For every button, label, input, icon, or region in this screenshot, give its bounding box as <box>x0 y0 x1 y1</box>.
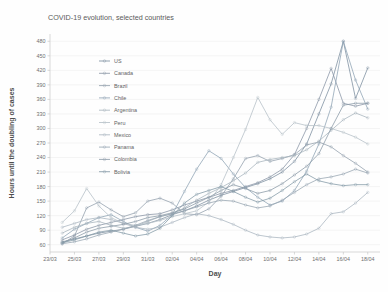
y-tick-label: 420 <box>37 67 46 73</box>
x-tick-label: 02/04 <box>165 256 179 262</box>
y-tick-label: 210 <box>37 169 46 175</box>
y-tick-label: 180 <box>37 184 46 190</box>
y-tick-label: 300 <box>37 125 46 131</box>
y-tick-label: 270 <box>37 140 46 146</box>
y-tick-label: 360 <box>37 96 46 102</box>
legend-label: Mexico <box>114 132 131 138</box>
y-tick-label: 90 <box>40 227 46 233</box>
x-tick-label: 29/03 <box>117 256 131 262</box>
x-tick-label: 18/04 <box>361 256 375 262</box>
covid-doubling-time-line-chart: COVID-19 evolution, selected countries 6… <box>0 0 388 292</box>
x-tick-label: 31/03 <box>141 256 155 262</box>
y-tick-label: 390 <box>37 82 46 88</box>
legend-label: Canada <box>114 70 133 76</box>
x-tick-label: 25/03 <box>68 256 82 262</box>
legend-label: Panama <box>114 144 134 150</box>
y-tick-label: 450 <box>37 53 46 59</box>
y-tick-label: 150 <box>37 198 46 204</box>
legend-label: Chile <box>114 95 126 101</box>
x-tick-label: 06/04 <box>214 256 228 262</box>
x-tick-label: 27/03 <box>92 256 106 262</box>
x-tick-label: 08/04 <box>239 256 253 262</box>
legend-label: Bolivia <box>114 169 130 175</box>
legend-label: Colombia <box>114 156 137 162</box>
x-tick-label: 16/04 <box>337 256 351 262</box>
legend-label: Argentina <box>114 107 137 113</box>
y-tick-label: 60 <box>40 242 46 248</box>
y-tick-label: 330 <box>37 111 46 117</box>
x-tick-label: 04/04 <box>190 256 204 262</box>
y-tick-label: 120 <box>37 213 46 219</box>
x-tick-label: 12/04 <box>288 256 302 262</box>
x-tick-label: 23/03 <box>43 256 57 262</box>
legend-label: Brazil <box>114 83 127 89</box>
legend-label: US <box>114 58 122 64</box>
x-tick-label: 14/04 <box>312 256 326 262</box>
x-axis-label: Day <box>209 270 222 278</box>
y-axis-label: Hours until the doubling of cases <box>8 87 16 198</box>
chart-title: COVID-19 evolution, selected countries <box>48 13 174 22</box>
y-tick-label: 480 <box>37 38 46 44</box>
x-tick-label: 10/04 <box>263 256 277 262</box>
legend-label: Peru <box>114 120 125 126</box>
y-tick-label: 240 <box>37 154 46 160</box>
chart-figure: COVID-19 evolution, selected countries 6… <box>0 0 388 292</box>
